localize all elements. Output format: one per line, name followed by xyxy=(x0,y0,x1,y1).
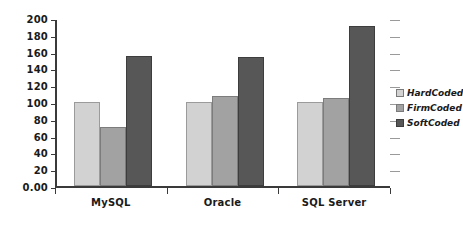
x-category-label-sql-server: SQL Server xyxy=(274,197,394,208)
legend-label: SoftCoded xyxy=(407,118,460,128)
x-tick-mark xyxy=(278,188,279,194)
y-tick-label: 40 xyxy=(0,149,48,159)
x-category-label-mysql: MySQL xyxy=(51,197,171,208)
bar-oracle-firmcoded xyxy=(212,96,238,186)
y-tick-label: 0.00 xyxy=(0,183,48,193)
plot-area xyxy=(55,20,390,188)
legend-label: HardCoded xyxy=(407,88,463,98)
bar-oracle-softcoded xyxy=(238,57,264,186)
x-tick-mark xyxy=(55,188,56,194)
legend-swatch-hardcoded-icon xyxy=(396,89,404,97)
legend-swatch-softcoded-icon xyxy=(396,119,404,127)
bar-sql-server-softcoded xyxy=(349,26,375,186)
y-tick-label: 120 xyxy=(0,82,48,92)
x-tick-mark xyxy=(390,188,391,194)
y-tick-label: 60 xyxy=(0,133,48,143)
y-tick-label: 200 xyxy=(0,15,48,25)
bar-mysql-firmcoded xyxy=(100,127,126,186)
bar-sql-server-firmcoded xyxy=(323,98,349,186)
legend-label: FirmCoded xyxy=(407,103,462,113)
x-tick-mark xyxy=(167,188,168,194)
bar-mysql-hardcoded xyxy=(74,102,100,186)
y-tick-label: 80 xyxy=(0,116,48,126)
bar-sql-server-hardcoded xyxy=(297,102,323,186)
bar-mysql-softcoded xyxy=(126,56,152,186)
y-tick-label: 180 xyxy=(0,32,48,42)
y-tick-label: 100 xyxy=(0,99,48,109)
x-category-label-oracle: Oracle xyxy=(163,197,283,208)
y-tick-label: 20 xyxy=(0,166,48,176)
y-tick-label: 160 xyxy=(0,49,48,59)
legend-item-hardcoded[interactable]: HardCoded xyxy=(396,86,452,99)
legend-swatch-firmcoded-icon xyxy=(396,104,404,112)
bar-oracle-hardcoded xyxy=(186,102,212,186)
legend-item-firmcoded[interactable]: FirmCoded xyxy=(396,101,452,114)
y-tick-label: 140 xyxy=(0,65,48,75)
legend-item-softcoded[interactable]: SoftCoded xyxy=(396,116,452,129)
chart-legend: HardCodedFirmCodedSoftCoded xyxy=(396,86,452,131)
